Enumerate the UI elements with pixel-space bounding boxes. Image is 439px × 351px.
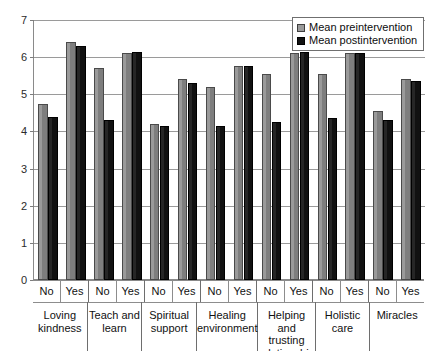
y-tick-mark-7	[30, 20, 34, 21]
subgroup-label-10: No	[313, 280, 341, 302]
y-tick-label-5: 5	[0, 89, 27, 100]
y-tick-mark-3	[30, 169, 34, 170]
bar-pre-0	[38, 104, 48, 280]
subgroup-label-0: No	[33, 280, 61, 302]
bar-post-11	[355, 53, 365, 280]
bar-post-4	[160, 126, 170, 280]
y-tick-mark-5	[30, 94, 34, 95]
bar-pre-6	[206, 87, 216, 280]
bar-post-13	[411, 81, 421, 280]
subgroup-label-7: Yes	[229, 280, 257, 302]
subgroup-label-2: No	[89, 280, 117, 302]
category-label-6: Miracles	[370, 302, 424, 351]
y-tick-label-2: 2	[0, 200, 27, 211]
bar-post-9	[300, 52, 310, 280]
y-tick-mark-6	[30, 57, 34, 58]
y-tick-mark-2	[30, 206, 34, 207]
subgroup-label-12: No	[369, 280, 397, 302]
subgroup-label-4: No	[145, 280, 173, 302]
plot-area	[33, 20, 424, 280]
y-tick-label-3: 3	[0, 163, 27, 174]
legend: Mean preintervention Mean postinterventi…	[292, 17, 424, 51]
bar-pre-8	[262, 74, 272, 280]
bar-pre-1	[66, 42, 76, 280]
subgroup-label-9: Yes	[285, 280, 313, 302]
bar-pre-3	[122, 53, 132, 280]
category-label-row: Loving kindnessTeach and learnSpiritual …	[33, 302, 424, 351]
y-tick-label-4: 4	[0, 126, 27, 137]
bar-post-7	[244, 66, 254, 280]
subgroup-label-row: NoYesNoYesNoYesNoYesNoYesNoYesNoYes	[33, 280, 424, 302]
legend-swatch-postintervention-icon	[297, 37, 305, 45]
y-tick-mark-1	[30, 243, 34, 244]
subgroup-label-11: Yes	[341, 280, 369, 302]
y-tick-label-1: 1	[0, 237, 27, 248]
bar-pre-10	[318, 74, 328, 280]
bar-pre-2	[94, 68, 104, 280]
x-axis: NoYesNoYesNoYesNoYesNoYesNoYesNoYes Lovi…	[33, 280, 424, 351]
category-label-2: Spiritual support	[142, 302, 197, 351]
bar-post-0	[48, 117, 58, 280]
bar-pre-12	[373, 111, 383, 280]
bar-pre-11	[345, 53, 355, 280]
category-label-5: Holistic care	[316, 302, 371, 351]
y-tick-label-7: 7	[0, 15, 27, 26]
subgroup-label-5: Yes	[173, 280, 201, 302]
category-label-1: Teach and learn	[88, 302, 143, 351]
legend-item-preintervention: Mean preintervention	[297, 21, 417, 34]
category-label-4: Helping and trusting relationship	[258, 302, 315, 351]
bar-post-8	[272, 122, 282, 280]
bar-post-2	[104, 120, 114, 280]
subgroup-label-1: Yes	[61, 280, 89, 302]
bar-pre-7	[234, 66, 244, 280]
y-tick-label-6: 6	[0, 52, 27, 63]
bar-post-12	[383, 120, 393, 280]
bar-post-6	[216, 126, 226, 280]
legend-label-preintervention: Mean preintervention	[309, 21, 412, 34]
bar-chart: 76543210 NoYesNoYesNoYesNoYesNoYesNoYesN…	[0, 0, 439, 351]
bar-post-1	[76, 46, 86, 280]
bars-layer	[34, 20, 425, 280]
bar-post-5	[188, 83, 198, 280]
bar-pre-9	[290, 53, 300, 280]
category-label-0: Loving kindness	[33, 302, 88, 351]
bar-pre-5	[178, 79, 188, 280]
bar-pre-13	[401, 79, 411, 280]
category-label-3: Healing environment	[197, 302, 259, 351]
subgroup-label-3: Yes	[117, 280, 145, 302]
legend-swatch-preintervention-icon	[297, 24, 305, 32]
legend-label-postintervention: Mean postintervention	[309, 34, 417, 47]
y-tick-mark-4	[30, 131, 34, 132]
y-tick-label-0: 0	[0, 275, 27, 286]
bar-pre-4	[150, 124, 160, 280]
legend-item-postintervention: Mean postintervention	[297, 34, 417, 47]
subgroup-label-6: No	[201, 280, 229, 302]
subgroup-label-13: Yes	[397, 280, 424, 302]
subgroup-label-8: No	[257, 280, 285, 302]
bar-post-3	[132, 52, 142, 280]
bar-post-10	[328, 118, 338, 280]
